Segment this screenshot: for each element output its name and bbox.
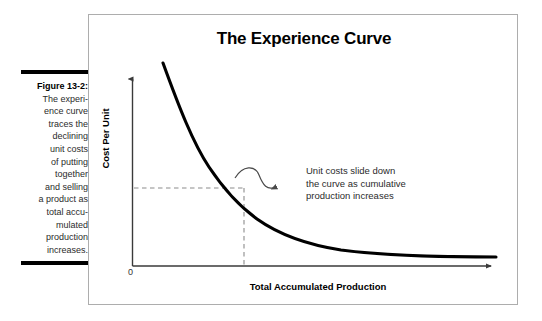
figure-caption-text: The experi- ence curve traces the declin… xyxy=(14,93,88,257)
caption-rule-top xyxy=(21,70,88,74)
figure-caption: Figure 13-2: The experi- ence curve trac… xyxy=(14,70,88,265)
x-axis-title: Total Accumulated Production xyxy=(133,281,503,292)
origin-label: 0 xyxy=(128,267,133,277)
curve-annotation-text: Unit costs slide down the curve as cumul… xyxy=(306,165,466,203)
experience-curve-plot xyxy=(89,15,519,306)
caption-rule-bottom xyxy=(21,261,88,265)
callout-arrow xyxy=(235,168,276,188)
chart-frame: The Experience Curve Cost Per Unit Total… xyxy=(88,14,518,305)
y-axis-title: Cost Per Unit xyxy=(100,89,111,189)
experience-curve-line xyxy=(163,63,496,257)
figure-number-label: Figure 13-2: xyxy=(14,80,88,93)
